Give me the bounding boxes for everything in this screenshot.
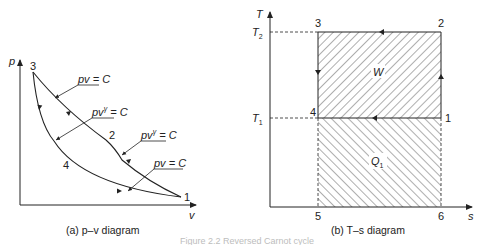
figure-canvas: p v 3 2 1 4 pv = C pvγ = C bbox=[0, 0, 483, 245]
annotation-left-adiabatic: pvγ = C bbox=[56, 105, 128, 140]
arrow-2-3 bbox=[66, 111, 71, 116]
ts-point-6: 6 bbox=[438, 210, 444, 222]
ts-x-axis-label: s bbox=[468, 210, 474, 222]
work-label: W bbox=[373, 66, 385, 78]
arrow-4-1 bbox=[117, 189, 122, 194]
ts-point-3: 3 bbox=[315, 17, 321, 29]
svg-text:pvγ = C: pvγ = C bbox=[140, 128, 177, 141]
ts-point-2: 2 bbox=[438, 17, 444, 29]
ts-diagram-caption: (b) T–s diagram bbox=[331, 224, 405, 236]
pv-diagram-caption: (a) p–v diagram bbox=[66, 224, 140, 236]
pv-point-2: 2 bbox=[109, 129, 115, 141]
pv-point-1: 1 bbox=[184, 191, 190, 203]
pv-diagram: p v 3 2 1 4 pv = C pvγ = C bbox=[8, 55, 196, 236]
ts-point-1: 1 bbox=[445, 112, 451, 124]
pv-point-3: 3 bbox=[30, 60, 36, 72]
pv-y-axis-label: p bbox=[8, 55, 15, 67]
annotation-bottom-isothermal: pv = C bbox=[128, 157, 186, 191]
pv-point-4: 4 bbox=[63, 159, 69, 171]
t2-label: T2 bbox=[252, 26, 263, 40]
svg-text:pv = C: pv = C bbox=[77, 73, 110, 85]
pv-x-axis-label: v bbox=[189, 209, 196, 221]
ts-point-5: 5 bbox=[315, 210, 321, 222]
curve-3-4-adiabatic bbox=[33, 72, 54, 141]
figure-caption: Figure 2.2 Reversed Carnot cycle bbox=[180, 236, 314, 245]
svg-text:pv = C: pv = C bbox=[153, 157, 186, 169]
ts-y-axis-label: T bbox=[256, 8, 264, 20]
annotation-top-isothermal: pv = C bbox=[55, 73, 110, 98]
t1-label: T1 bbox=[252, 112, 263, 126]
ts-diagram: T s T2 T1 3 2 4 1 5 6 W Q1 (b) T–s diagr… bbox=[252, 8, 474, 236]
svg-text:pvγ = C: pvγ = C bbox=[91, 105, 128, 118]
ts-point-4: 4 bbox=[310, 106, 316, 118]
annotation-right-adiabatic: pvγ = C bbox=[122, 128, 177, 155]
